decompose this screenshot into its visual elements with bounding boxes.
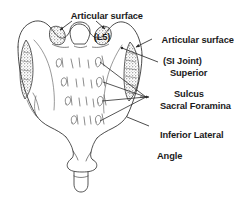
label-inferior-lateral-angle: Inferior Lateral Angle bbox=[150, 120, 223, 182]
label-superior-sulcus-line1: Superior bbox=[170, 68, 207, 78]
label-articular-surface-l5-line1: Articular surface bbox=[71, 11, 143, 21]
sacrum-anatomy-figure: Articular surface (L5) Articular surface… bbox=[0, 0, 234, 199]
label-inferior-lateral-angle-line2: Angle bbox=[150, 151, 223, 161]
label-articular-surface-si-line1: Articular surface bbox=[162, 35, 234, 45]
inferior-lateral-angles bbox=[66, 137, 97, 172]
label-inferior-lateral-angle-line1: Inferior Lateral bbox=[160, 130, 224, 140]
label-articular-surface-l5: Articular surface (L5) bbox=[52, 1, 152, 63]
label-sacral-foramina: Sacral Foramina bbox=[150, 91, 231, 122]
foramina-row-3 bbox=[65, 95, 106, 107]
label-sacral-foramina-line1: Sacral Foramina bbox=[160, 101, 231, 111]
foramina-row-4 bbox=[71, 114, 104, 125]
leader-inferior-lateral-angle bbox=[127, 117, 149, 126]
foramina-row-2 bbox=[61, 76, 105, 88]
label-articular-surface-l5-line2: (L5) bbox=[52, 32, 152, 42]
sacral-foramina-rows bbox=[56, 56, 106, 125]
coccyx-segment bbox=[74, 172, 88, 192]
auricular-surface-left bbox=[20, 40, 33, 99]
